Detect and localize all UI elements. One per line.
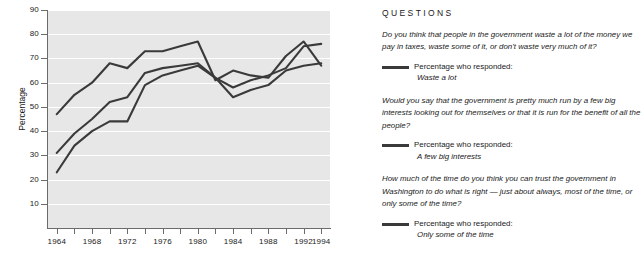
x-tick <box>233 229 234 234</box>
x-tick <box>92 229 93 234</box>
series-line <box>57 63 321 172</box>
x-tick-label: 1972 <box>107 237 147 246</box>
y-tick-label: 70 <box>30 53 39 62</box>
y-tick-label: 60 <box>30 78 39 87</box>
x-tick-label: 1984 <box>213 237 253 246</box>
x-tick <box>286 229 287 234</box>
question-prompt: Would you say that the government is pre… <box>382 95 643 132</box>
legend-response-label: A few big interests <box>414 151 513 162</box>
y-tick-label: 50 <box>30 102 39 111</box>
question-prompt: Do you think that people in the governme… <box>382 29 643 54</box>
y-tick-label: 80 <box>30 29 39 38</box>
y-tick <box>41 58 47 59</box>
y-tick-label: 30 <box>30 150 39 159</box>
x-tick-label: 1976 <box>143 237 183 246</box>
x-tick-label: 1994 <box>301 237 341 246</box>
legend-text: Percentage who responded:Only some of th… <box>414 218 513 241</box>
x-tick-label: 1968 <box>72 237 112 246</box>
x-tick <box>163 229 164 234</box>
legend-entry: Percentage who responded:Only some of th… <box>382 218 643 241</box>
question-block: Would you say that the government is pre… <box>382 95 643 162</box>
x-tick-label: 1980 <box>178 237 218 246</box>
x-tick <box>74 229 75 234</box>
x-tick <box>251 229 252 234</box>
x-tick <box>57 229 58 234</box>
x-tick <box>215 229 216 234</box>
questions-list: Do you think that people in the governme… <box>382 29 643 241</box>
legend-line-swatch-icon <box>382 223 409 226</box>
x-tick-label: 1964 <box>37 237 77 246</box>
legend-response-label: Waste a lot <box>414 72 513 83</box>
x-tick <box>110 229 111 234</box>
series-line <box>57 41 321 114</box>
x-axis-line <box>47 228 331 229</box>
y-tick-label: 40 <box>30 126 39 135</box>
question-block: Do you think that people in the governme… <box>382 29 643 84</box>
y-tick <box>41 34 47 35</box>
y-tick <box>41 204 47 205</box>
y-axis-line <box>47 10 48 229</box>
y-tick <box>41 131 47 132</box>
x-tick <box>180 229 181 234</box>
questions-panel: QUESTIONS Do you think that people in th… <box>382 0 643 268</box>
legend-entry: Percentage who responded:A few big inter… <box>382 139 643 162</box>
x-tick <box>304 229 305 234</box>
x-tick <box>127 229 128 234</box>
y-tick-label: 10 <box>30 199 39 208</box>
y-tick <box>41 180 47 181</box>
legend-text: Percentage who responded:A few big inter… <box>414 139 513 162</box>
y-tick <box>41 155 47 156</box>
legend-line-swatch-icon <box>382 144 409 147</box>
y-tick-label: 20 <box>30 175 39 184</box>
series-lines <box>48 10 330 228</box>
chart-figure: 102030405060708090 196419681972197619801… <box>0 0 643 268</box>
y-tick-label: 90 <box>30 5 39 14</box>
legend-text: Percentage who responded:Waste a lot <box>414 61 513 84</box>
y-tick <box>41 107 47 108</box>
x-tick <box>268 229 269 234</box>
legend-entry: Percentage who responded:Waste a lot <box>382 61 643 84</box>
x-tick <box>198 229 199 234</box>
y-tick <box>41 10 47 11</box>
legend-line-swatch-icon <box>382 66 409 69</box>
x-tick <box>145 229 146 234</box>
y-axis-title: Percentage <box>17 69 27 149</box>
question-prompt: How much of the time do you think you ca… <box>382 173 643 210</box>
line-chart-panel: 102030405060708090 196419681972197619801… <box>0 0 360 268</box>
questions-heading: QUESTIONS <box>382 8 643 18</box>
y-tick <box>41 83 47 84</box>
x-tick-label: 1988 <box>248 237 288 246</box>
question-block: How much of the time do you think you ca… <box>382 173 643 240</box>
x-tick <box>321 229 322 234</box>
legend-response-label: Only some of the time <box>414 229 513 240</box>
